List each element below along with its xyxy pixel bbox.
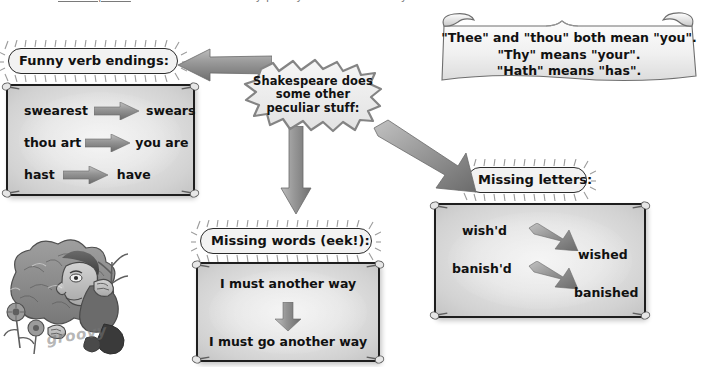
label-verb-endings: Funny verb endings:	[8, 48, 178, 74]
diagonal-arrow-icon	[528, 223, 580, 251]
pin-icon	[365, 350, 385, 367]
scroll-line-1: "Thee" and "thou" both mean "you".	[434, 30, 704, 47]
pin-icon	[180, 78, 200, 95]
pin-icon	[428, 197, 448, 214]
cloud-text: Shakespeare does some other peculiar stu…	[243, 57, 383, 133]
label-verb-endings-text: Funny verb endings:	[8, 48, 178, 74]
person-in-bush-cartoon: groovy	[0, 232, 132, 360]
scroll-banner-text: "Thee" and "thou" both mean "you". "Thy"…	[434, 30, 704, 80]
pair-to: wished	[578, 249, 628, 262]
pin-icon	[190, 256, 210, 273]
cloud-callout: Shakespeare does some other peculiar stu…	[243, 57, 383, 133]
cartoon-illustration	[0, 232, 132, 360]
pin-icon	[365, 256, 385, 273]
arrow-to-missing-words	[279, 126, 313, 216]
pair-row: I must another way	[198, 278, 378, 291]
pair-row: banish'd	[452, 263, 512, 276]
pair-from: hast	[24, 169, 55, 182]
diagram-page: Shakespeare it's really poetry - that's …	[0, 0, 708, 367]
scroll-line-3: "Hath" means "has".	[434, 63, 704, 80]
pin-icon	[0, 184, 20, 201]
panel-missing-letters: wish'd wished banish'd banished	[434, 203, 646, 318]
pair-from: thou art	[24, 137, 81, 150]
meanings-scroll-banner: "Thee" and "thou" both mean "you". "Thy"…	[434, 10, 704, 82]
panel-verb-endings: swearest swears thou art you are hast ha…	[6, 84, 195, 196]
cloud-line-1: Shakespeare does	[253, 75, 373, 89]
label-missing-words-text: Missing words (eek!):	[200, 228, 372, 254]
flower-icon	[28, 320, 44, 354]
panel-missing-words: I must another way I must go another way	[196, 262, 380, 362]
pair-row: hast have	[24, 166, 151, 184]
pin-icon	[190, 350, 210, 367]
header-fragment-left: Shakespeare	[58, 0, 131, 3]
pin-icon	[631, 197, 651, 214]
right-arrow-icon	[94, 102, 140, 120]
diagonal-arrow-icon	[528, 261, 580, 289]
scroll-line-2: "Thy" means "your".	[434, 47, 704, 64]
down-arrow-icon	[274, 302, 302, 332]
pair-to: I must go another way	[209, 336, 367, 349]
right-arrow-icon	[85, 134, 131, 152]
pair-row: wished	[578, 249, 628, 262]
pair-from: banish'd	[452, 263, 512, 276]
header-fragment-right: it's really poetry - that's what they me…	[210, 0, 443, 3]
cut-off-header-text: Shakespeare it's really poetry - that's …	[0, 0, 708, 9]
pin-icon	[631, 306, 651, 323]
label-missing-letters-text: Missing letters:	[467, 167, 587, 193]
label-missing-words: Missing words (eek!):	[200, 228, 372, 254]
pair-to: have	[117, 169, 151, 182]
cloud-line-2: some other	[276, 88, 351, 102]
pair-from: wish'd	[462, 225, 507, 238]
pin-icon	[180, 184, 200, 201]
pair-to: banished	[574, 287, 638, 300]
right-arrow-icon	[63, 166, 109, 184]
pair-row: I must go another way	[198, 336, 378, 349]
pin-icon	[428, 306, 448, 323]
pair-row: swearest swears	[24, 102, 195, 120]
pin-icon	[0, 78, 20, 95]
cloud-line-3: peculiar stuff:	[267, 102, 360, 116]
pair-from: swearest	[24, 105, 88, 118]
pair-row: wish'd	[462, 225, 507, 238]
label-missing-letters: Missing letters:	[467, 167, 587, 193]
pair-to: swears	[146, 105, 196, 118]
pair-to: you are	[135, 137, 188, 150]
pair-row: thou art you are	[24, 134, 188, 152]
pair-row: banished	[574, 287, 638, 300]
pair-from: I must another way	[220, 278, 356, 291]
